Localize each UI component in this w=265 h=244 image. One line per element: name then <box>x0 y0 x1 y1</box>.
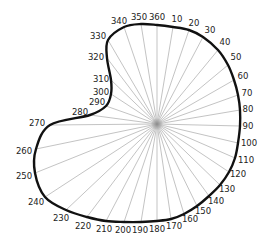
angle-label: 80 <box>243 104 254 114</box>
spoke-line <box>141 24 157 124</box>
spoke-line <box>157 124 235 158</box>
angle-label: 30 <box>205 25 216 35</box>
angle-label: 230 <box>53 213 69 223</box>
spoke-line <box>157 124 240 126</box>
angle-label: 280 <box>72 107 88 117</box>
spoke-line <box>36 124 157 149</box>
spoke-line <box>66 124 157 210</box>
spoke-line <box>90 115 157 124</box>
angle-label: 340 <box>111 16 127 26</box>
angle-label: 170 <box>166 221 182 231</box>
angle-label: 330 <box>90 31 106 41</box>
angle-label: 190 <box>132 225 148 235</box>
angle-label: 180 <box>149 224 165 234</box>
angle-label: 160 <box>182 214 198 224</box>
angle-label: 200 <box>115 225 131 235</box>
polar-outline-diagram: 3601020304050607080901001101201301401501… <box>0 0 265 244</box>
angle-label: 110 <box>238 155 254 165</box>
spoke-line <box>45 124 157 197</box>
angle-label: 300 <box>93 87 109 97</box>
angle-label: 100 <box>241 138 257 148</box>
angle-label: 90 <box>243 121 254 131</box>
angle-label: 270 <box>29 118 45 128</box>
angle-label: 130 <box>219 184 235 194</box>
angle-label: 120 <box>230 169 246 179</box>
spoke-line <box>111 80 157 124</box>
spoke-line <box>106 106 157 124</box>
angle-label: 350 <box>131 12 147 22</box>
angle-label: 70 <box>242 88 253 98</box>
radial-spokes <box>35 24 240 222</box>
spoke-line <box>157 124 229 172</box>
angle-label: 60 <box>238 71 249 81</box>
closed-outline-curve <box>34 24 240 222</box>
spoke-line <box>111 94 157 124</box>
angle-label: 50 <box>231 52 242 62</box>
angle-label: 10 <box>172 14 183 24</box>
spoke-line <box>157 65 228 124</box>
angle-label: 320 <box>88 52 104 62</box>
angle-label: 360 <box>149 12 165 22</box>
angle-label: 290 <box>89 97 105 107</box>
spoke-line <box>157 30 189 124</box>
center-hub <box>149 116 165 132</box>
spoke-line <box>157 124 238 143</box>
spoke-line <box>157 124 209 196</box>
angle-label: 140 <box>208 196 224 206</box>
angle-label: 260 <box>16 146 32 156</box>
angle-label: 40 <box>220 37 231 47</box>
spoke-line <box>50 124 157 125</box>
spoke-line <box>124 124 157 222</box>
angle-label: 310 <box>93 74 109 84</box>
angle-label: 240 <box>28 197 44 207</box>
angle-label: 220 <box>75 221 91 231</box>
angle-label: 20 <box>189 18 200 28</box>
angle-label: 250 <box>16 171 32 181</box>
angle-label: 210 <box>96 224 112 234</box>
spoke-line <box>157 124 184 214</box>
spoke-line <box>107 58 157 124</box>
